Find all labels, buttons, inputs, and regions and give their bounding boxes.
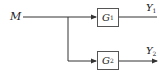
block-g2-label: G bbox=[102, 55, 110, 66]
block-g2-subscript: 2 bbox=[110, 57, 114, 64]
block-g1-label: G bbox=[102, 12, 110, 23]
output-label-y1: Y1 bbox=[146, 3, 156, 14]
block-diagram bbox=[0, 0, 167, 76]
block-g1-subscript: 1 bbox=[110, 14, 114, 21]
block-g1: G1 bbox=[97, 8, 119, 27]
input-label-m: M bbox=[10, 11, 21, 22]
block-g2: G2 bbox=[97, 51, 119, 70]
output-label-y2: Y2 bbox=[146, 46, 156, 57]
